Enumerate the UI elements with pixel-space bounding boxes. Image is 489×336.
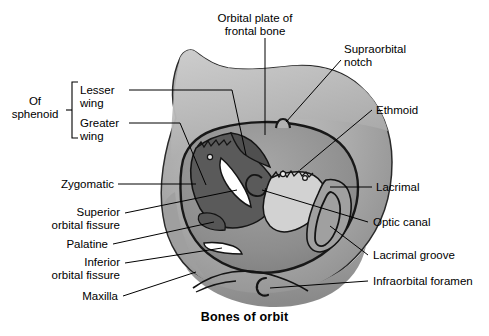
bones-of-orbit-figure: Orbital plate of frontal bone Supraorbit… (0, 0, 489, 336)
sphenoid-bracket (66, 82, 78, 138)
label-infraorbital-foramen: Infraorbital foramen (373, 275, 489, 288)
posterior-ethmoidal-foramen (303, 176, 308, 181)
label-inferior-orbital-fissure: Inferior orbital fissure (2, 256, 120, 281)
label-orbital-plate-of-frontal-bone: Orbital plate of frontal bone (200, 12, 310, 37)
label-superior-orbital-fissure: Superior orbital fissure (2, 206, 120, 231)
label-maxilla: Maxilla (2, 290, 118, 303)
label-zygomatic: Zygomatic (10, 178, 114, 191)
label-of-sphenoid: Of sphenoid (4, 95, 66, 120)
leader-maxilla (123, 272, 196, 296)
label-ethmoid: Ethmoid (376, 104, 476, 117)
label-palatine: Palatine (2, 238, 108, 251)
label-lacrimal-groove: Lacrimal groove (373, 249, 489, 262)
figure-title: Bones of orbit (0, 310, 489, 324)
label-lesser-wing: Lesser wing (80, 84, 140, 109)
label-supraorbital-notch: Supraorbital notch (344, 43, 464, 68)
sphenoid-foramen (207, 154, 212, 159)
label-greater-wing: Greater wing (80, 117, 146, 142)
label-optic-canal: Optic canal (373, 216, 483, 229)
anterior-ethmoidal-foramen (280, 171, 285, 176)
label-lacrimal: Lacrimal (376, 181, 476, 194)
